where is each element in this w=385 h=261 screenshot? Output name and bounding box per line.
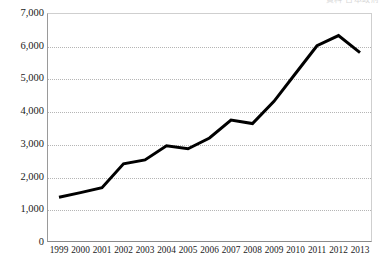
x-tick-label: 2009 — [265, 246, 284, 255]
line-chart: 資料 日本政府 01,0002,0003,0004,0005,0006,0007… — [0, 0, 385, 261]
x-tick-label: 2001 — [93, 246, 112, 255]
x-tick-label: 2008 — [243, 246, 262, 255]
gridline — [48, 178, 371, 179]
gridline — [48, 210, 371, 211]
x-tick-label: 2003 — [136, 246, 155, 255]
clipped-header-text: 資料 日本政府 — [326, 0, 380, 4]
x-tick-label: 2002 — [114, 246, 133, 255]
x-tick-label: 2004 — [157, 246, 176, 255]
y-tick-label: 5,000 — [0, 73, 44, 84]
x-tick-label: 2005 — [179, 246, 198, 255]
x-tick-label: 2013 — [351, 246, 370, 255]
y-tick-label: 2,000 — [0, 172, 44, 183]
y-tick-label: 6,000 — [0, 41, 44, 52]
gridline — [48, 47, 371, 48]
x-tick-label: 2007 — [222, 246, 241, 255]
x-tick-label: 2010 — [286, 246, 305, 255]
gridline — [48, 112, 371, 113]
x-tick-label: 1999 — [50, 246, 69, 255]
y-tick-label: 0 — [0, 237, 44, 248]
plot-area — [47, 13, 372, 242]
y-tick-label: 1,000 — [0, 204, 44, 215]
x-tick-label: 2006 — [200, 246, 219, 255]
gridline — [48, 145, 371, 146]
x-tick-label: 2011 — [308, 246, 326, 255]
gridline — [48, 79, 371, 80]
y-tick-label: 4,000 — [0, 106, 44, 117]
y-tick-label: 3,000 — [0, 139, 44, 150]
x-tick-label: 2012 — [329, 246, 348, 255]
x-axis: 1999200020012002200320042005200620072008… — [47, 246, 372, 260]
y-axis: 01,0002,0003,0004,0005,0006,0007,000 — [0, 0, 44, 261]
x-tick-label: 2000 — [71, 246, 90, 255]
y-tick-label: 7,000 — [0, 8, 44, 19]
